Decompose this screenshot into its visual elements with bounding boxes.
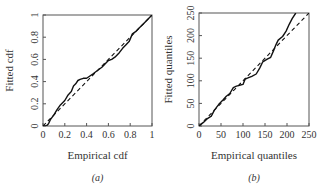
panel-b-chart: 050100150200250 050100150200250 Empirica… xyxy=(162,6,317,185)
x-tick-label: 200 xyxy=(280,129,295,140)
y-tick-label: 0 xyxy=(29,124,40,129)
y-tick-label: 0.2 xyxy=(29,98,40,111)
chart-figure: 00.20.40.60.81 00.20.40.60.81 Empirical … xyxy=(0,0,327,187)
x-tick-label: 100 xyxy=(236,129,251,140)
x-tick-label: 0.4 xyxy=(80,129,93,140)
y-tick-label: 0.6 xyxy=(29,53,40,66)
y-tick-label: 50 xyxy=(185,98,196,108)
y-tick-label: 0.8 xyxy=(29,31,40,44)
x-tick-label: 250 xyxy=(302,129,317,140)
x-tick-label: 150 xyxy=(258,129,273,140)
panel-a-y-axis-label: Fitted cdf xyxy=(3,49,15,92)
x-tick-label: 0 xyxy=(197,129,202,140)
x-tick-label: 50 xyxy=(216,129,226,140)
y-tick-label: 100 xyxy=(185,73,196,88)
panel-a-series xyxy=(43,15,152,126)
fitted-solid-line xyxy=(199,13,296,126)
y-tick-label: 250 xyxy=(185,6,196,21)
y-tick-label: 1 xyxy=(29,13,40,18)
reference-dashed-line xyxy=(199,13,309,126)
panel-a-label: (a) xyxy=(92,172,104,184)
panel-a-x-axis-label: Empirical cdf xyxy=(67,149,128,161)
x-tick-label: 0.8 xyxy=(124,129,137,140)
panel-a-chart: 00.20.40.60.81 00.20.40.60.81 Empirical … xyxy=(3,13,155,185)
x-tick-label: 0.6 xyxy=(102,129,115,140)
y-tick-label: 150 xyxy=(185,51,196,66)
panel-b-y-axis-label: Fitted quantiles xyxy=(162,35,174,103)
y-tick-label: 0 xyxy=(185,124,196,129)
y-tick-label: 0.4 xyxy=(29,75,40,88)
x-tick-label: 0 xyxy=(41,129,46,140)
panel-b-label: (b) xyxy=(248,172,260,184)
panel-b-series xyxy=(199,13,309,126)
panel-b-x-axis-label: Empirical quantiles xyxy=(211,149,297,161)
x-tick-label: 0.2 xyxy=(59,129,72,140)
x-tick-label: 1 xyxy=(150,129,155,140)
y-tick-label: 200 xyxy=(185,28,196,43)
